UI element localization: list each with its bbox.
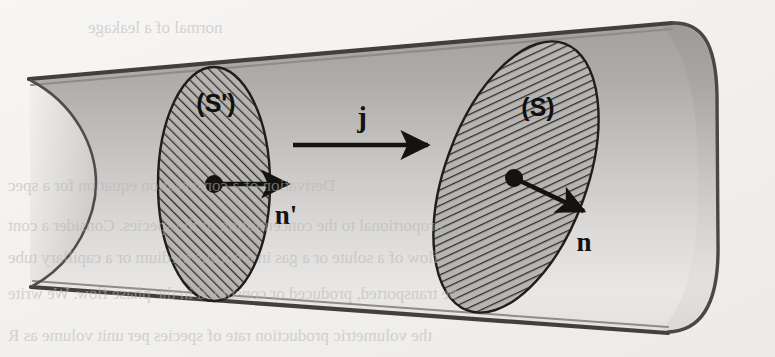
flux-tube xyxy=(29,23,718,333)
s-label: (S) xyxy=(521,93,554,121)
flux-tube-diagram: (S') (S) j n' n xyxy=(0,0,775,357)
s-prime-label: (S') xyxy=(196,89,235,117)
n-origin-dot xyxy=(505,169,523,187)
n-prime-label: n' xyxy=(275,200,298,230)
j-label: j xyxy=(356,101,367,133)
n-label: n xyxy=(576,227,591,257)
figure-root: normal of a leakageDerivation of a conse… xyxy=(0,0,775,357)
